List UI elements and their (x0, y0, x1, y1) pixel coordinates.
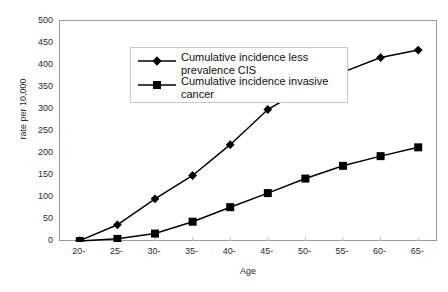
y-axis-tick-label: 150 (26, 170, 53, 179)
x-axis-tick-label: 25- (110, 246, 123, 256)
x-axis-tick-label: 50- (298, 246, 311, 256)
y-axis-tick-label: 300 (26, 104, 53, 113)
legend-label: Cumulative incidence invasive cancer (181, 75, 328, 101)
chart-container: rate per 10,000 050100150200250300350400… (0, 0, 448, 292)
data-point-square (76, 237, 84, 242)
data-point-square (339, 162, 347, 170)
data-point-square (301, 175, 309, 183)
data-point-square (377, 152, 385, 160)
x-axis-title: Age (59, 266, 437, 276)
x-axis-tick-label: 35- (185, 246, 198, 256)
x-axis-tick-label: 30- (147, 246, 160, 256)
data-point-square (151, 230, 159, 238)
x-axis-tick-label: 65- (411, 246, 424, 256)
y-axis-tick-label: 100 (26, 192, 53, 201)
y-axis-tick-labels: 050100150200250300350400450500 (26, 20, 53, 241)
plot-area: Cumulative incidence less prevalence CIS… (59, 20, 437, 241)
y-axis-tick-label: 400 (26, 60, 53, 69)
square-marker-icon (137, 79, 177, 91)
y-axis-tick-label: 350 (26, 82, 53, 91)
data-series (76, 143, 422, 242)
x-axis-tick-labels: 20-25-30-35-40-45-50-55-60-65- (59, 246, 437, 258)
x-axis-tick-label: 60- (373, 246, 386, 256)
chart-legend: Cumulative incidence less prevalence CIS… (130, 47, 348, 103)
data-point-square (113, 235, 121, 242)
x-axis-tick-label: 45- (260, 246, 273, 256)
y-axis-tick-label: 500 (26, 16, 53, 25)
legend-label: Cumulative incidence less prevalence CIS (181, 51, 308, 77)
series-line (80, 147, 418, 241)
y-axis-tick-label: 250 (26, 126, 53, 135)
data-point-square (264, 189, 272, 197)
data-point-diamond (113, 220, 122, 229)
data-point-square (189, 218, 197, 226)
x-axis-tick-label: 40- (223, 246, 236, 256)
y-axis-tick-label: 450 (26, 38, 53, 47)
data-point-square (414, 143, 422, 151)
y-axis-tick-label: 200 (26, 148, 53, 157)
data-point-diamond (376, 53, 385, 62)
data-point-diamond (151, 194, 160, 203)
y-axis-tick-label: 0 (26, 236, 53, 245)
data-point-square (226, 203, 234, 211)
x-axis-tick-label: 55- (335, 246, 348, 256)
diamond-marker-icon (137, 55, 177, 67)
data-point-diamond (414, 46, 423, 55)
y-axis-tick-label: 50 (26, 214, 53, 223)
x-axis-tick-label: 20- (72, 246, 85, 256)
